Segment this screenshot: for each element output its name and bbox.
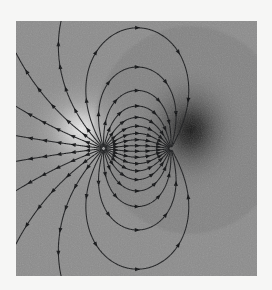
field-line-canvas <box>16 21 257 276</box>
film-grain <box>16 21 257 276</box>
vector-field-plot <box>16 21 257 276</box>
figure-root <box>0 0 272 290</box>
